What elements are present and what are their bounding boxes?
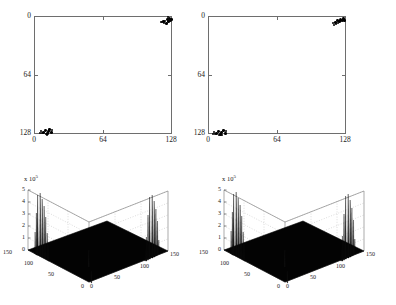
y-tick-mark xyxy=(208,75,212,76)
right-axis-tick-label: 100 xyxy=(336,263,345,270)
x-tick-label: 0 xyxy=(25,136,43,144)
left-axis-tick-label: 150 xyxy=(199,249,208,256)
z-tick-label: 1 xyxy=(14,234,25,241)
scatter-plot-box-right xyxy=(208,16,346,134)
scatter-point xyxy=(221,134,223,136)
z-tick-label: 4 xyxy=(14,198,25,205)
spike-cluster-left xyxy=(231,192,245,261)
x-tick-mark-top xyxy=(277,16,278,20)
left-axis-tick-label: 50 xyxy=(48,271,54,278)
y-tick-label: 0 xyxy=(12,12,31,20)
scatter-point xyxy=(224,132,227,135)
scatter-panel-right: 0 64 128 0 64 128 xyxy=(198,0,396,155)
x-tick-label: 64 xyxy=(94,136,112,144)
scatter-point xyxy=(343,19,346,22)
scatter-point xyxy=(170,18,173,21)
z-tick-label: 0 xyxy=(210,246,221,253)
left-axis-tick-label: 150 xyxy=(3,249,12,256)
x-tick-mark xyxy=(345,130,346,134)
z-tick-label: 3 xyxy=(14,210,25,217)
scatter-point xyxy=(46,134,48,136)
y-tick-mark xyxy=(34,75,38,76)
x-tick-mark xyxy=(277,130,278,134)
scatter-point xyxy=(50,131,53,134)
z-tick-label: 2 xyxy=(210,222,221,229)
y-tick-mark-right xyxy=(168,75,172,76)
right-axis-tick-label: 50 xyxy=(310,274,316,281)
x-tick-mark xyxy=(171,130,172,134)
x-tick-mark xyxy=(103,130,104,134)
z-tick-marks xyxy=(224,190,227,250)
z-tick-label: 0 xyxy=(14,246,25,253)
left-axis-tick-label: 0 xyxy=(81,283,84,290)
z-tick-label: 4 xyxy=(210,198,221,205)
figure-canvas: 0 64 128 0 64 128 xyxy=(0,0,396,305)
scatter-plot-box-left xyxy=(34,16,172,134)
z-tick-label: 5 xyxy=(14,186,25,193)
left-axis-tick-label: 0 xyxy=(277,283,280,290)
spike-cluster-left xyxy=(35,193,49,261)
y-tick-label: 0 xyxy=(186,12,205,20)
x-tick-label: 128 xyxy=(334,136,356,144)
x-tick-label: 128 xyxy=(160,136,182,144)
x-tick-mark-top xyxy=(103,16,104,20)
z-tick-label: 1 xyxy=(210,234,221,241)
y-tick-label: 64 xyxy=(186,71,205,79)
z-tick-label: 3 xyxy=(210,210,221,217)
z-tick-marks xyxy=(28,190,31,250)
z-tick-label: 5 xyxy=(210,186,221,193)
x-tick-label: 0 xyxy=(199,136,217,144)
scatter-point xyxy=(214,133,216,135)
x-tick-mark xyxy=(208,130,209,134)
right-axis-tick-label: 0 xyxy=(90,283,93,290)
x-tick-mark xyxy=(34,130,35,134)
y-tick-mark-right xyxy=(342,75,346,76)
scatter-panel-left: 0 64 128 0 64 128 xyxy=(0,0,198,155)
surface-panel-left: x 105 xyxy=(0,155,198,305)
x-tick-mark-top xyxy=(208,16,209,20)
surface-3d-graphic-right xyxy=(198,155,396,305)
left-axis-tick-label: 50 xyxy=(244,271,250,278)
z-tick-label: 2 xyxy=(14,222,25,229)
right-axis-tick-label: 150 xyxy=(170,251,179,258)
left-axis-tick-label: 100 xyxy=(220,260,229,267)
right-axis-tick-label: 150 xyxy=(366,251,375,258)
x-tick-label: 64 xyxy=(268,136,286,144)
right-axis-tick-label: 100 xyxy=(140,263,149,270)
right-axis-tick-label: 50 xyxy=(114,274,120,281)
right-axis-tick-label: 0 xyxy=(286,283,289,290)
surface-panel-right: x 105 xyxy=(198,155,396,305)
y-tick-label: 64 xyxy=(12,71,31,79)
left-axis-tick-label: 100 xyxy=(24,260,33,267)
surface-3d-graphic-left xyxy=(0,155,198,305)
x-tick-mark-top xyxy=(34,16,35,20)
